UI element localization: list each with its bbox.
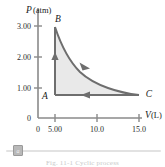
point-label-a: A [41, 91, 48, 101]
point-label-b: B [55, 14, 61, 24]
x-tick-label-15: 15.0 [132, 125, 146, 134]
scrollbar-track[interactable] [6, 150, 161, 152]
pv-diagram-canvas: P (atm) V (L) 3.00 2.00 1.00 0 0 5.00 10… [0, 0, 165, 167]
x-tick-label-10: 10.0 [90, 125, 104, 134]
cycle-shaded-region [55, 27, 139, 95]
figure-caption: Fig. 11-1 Cyclic process [0, 159, 165, 167]
y-tick-label-1: 1.00 [17, 84, 31, 93]
x-tick-label-0: 0 [36, 125, 40, 134]
horizontal-scrollbar[interactable]: a [0, 145, 165, 157]
y-axis-label-symbol: P [25, 5, 32, 15]
x-tick-label-5: 5.00 [48, 125, 62, 134]
pv-diagram-figure: P (atm) V (L) 3.00 2.00 1.00 0 0 5.00 10… [0, 0, 165, 167]
y-tick-label-2: 2.00 [17, 53, 31, 62]
scrollbar-thumb-label: a [17, 148, 20, 154]
y-tick-label-3: 3.00 [17, 22, 31, 31]
y-tick-label-0: 0 [27, 114, 31, 123]
scrollbar-thumb[interactable]: a [13, 145, 23, 156]
y-axis-label-unit: (atm) [33, 5, 52, 15]
x-axis-label-unit: (L) [151, 110, 162, 120]
arrow-b-to-c-icon [80, 63, 91, 71]
point-label-c: C [146, 89, 153, 99]
